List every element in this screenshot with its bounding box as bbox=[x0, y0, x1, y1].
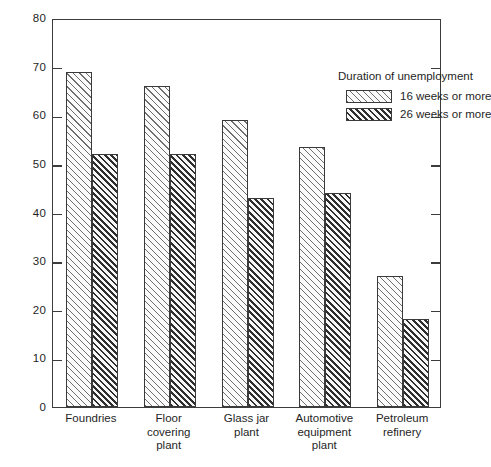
x-axis-category-label: Floorcoveringplant bbox=[130, 412, 208, 453]
legend-label-16-weeks: 16 weeks or more bbox=[400, 90, 491, 103]
y-tick-mark bbox=[431, 262, 440, 263]
x-axis-category-label: Automotiveequipmentplant bbox=[285, 412, 363, 453]
y-tick-label: 60 bbox=[0, 111, 46, 123]
y-tick-mark bbox=[431, 117, 440, 118]
bar bbox=[403, 319, 429, 407]
y-tick-label: 40 bbox=[0, 208, 46, 220]
y-tick-mark bbox=[53, 68, 62, 69]
y-tick-mark bbox=[431, 214, 440, 215]
legend-swatch-16-weeks bbox=[346, 90, 392, 103]
y-tick-mark bbox=[53, 165, 62, 166]
y-tick-mark bbox=[53, 214, 62, 215]
y-tick-mark bbox=[53, 262, 62, 263]
bar-group bbox=[222, 20, 274, 407]
y-tick-label: 0 bbox=[0, 402, 46, 414]
bar bbox=[144, 86, 170, 407]
bar bbox=[377, 276, 403, 407]
y-tick-label: 80 bbox=[0, 13, 46, 25]
x-axis-category-label: Glass jarplant bbox=[208, 412, 286, 439]
y-tick-mark bbox=[53, 117, 62, 118]
y-tick-label: 20 bbox=[0, 305, 46, 317]
legend-swatch-26-weeks bbox=[346, 108, 392, 121]
bar bbox=[222, 120, 248, 407]
y-tick-mark bbox=[431, 311, 440, 312]
bar bbox=[248, 198, 274, 407]
bar bbox=[92, 154, 118, 407]
y-tick-label: 70 bbox=[0, 62, 46, 74]
legend-label-26-weeks: 26 weeks or more bbox=[400, 108, 491, 121]
x-axis-category-label: Petroleumrefinery bbox=[363, 412, 441, 439]
bar bbox=[325, 193, 351, 407]
bar bbox=[66, 72, 92, 408]
y-tick-mark bbox=[431, 68, 440, 69]
plot-area: Duration of unemployment 16 weeks or mor… bbox=[52, 19, 441, 408]
chart-legend: Duration of unemployment 16 weeks or mor… bbox=[336, 70, 488, 126]
y-tick-mark bbox=[53, 360, 62, 361]
legend-item-16-weeks: 16 weeks or more bbox=[346, 90, 488, 103]
legend-title: Duration of unemployment bbox=[338, 70, 488, 83]
y-tick-mark bbox=[53, 311, 62, 312]
y-tick-label: 10 bbox=[0, 354, 46, 366]
y-tick-label: 50 bbox=[0, 159, 46, 171]
bar bbox=[170, 154, 196, 407]
x-axis-category-label: Foundries bbox=[52, 412, 130, 426]
bar-group bbox=[144, 20, 196, 407]
y-tick-label: 30 bbox=[0, 256, 46, 268]
y-axis: 01020304050607080 bbox=[0, 19, 46, 408]
y-tick-mark bbox=[431, 360, 440, 361]
bar-group bbox=[66, 20, 118, 407]
y-tick-mark bbox=[431, 165, 440, 166]
bar bbox=[299, 147, 325, 407]
x-axis: FoundriesFloorcoveringplantGlass jarplan… bbox=[52, 412, 441, 467]
legend-item-26-weeks: 26 weeks or more bbox=[346, 108, 488, 121]
